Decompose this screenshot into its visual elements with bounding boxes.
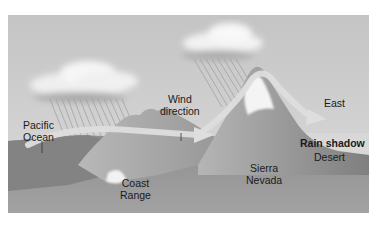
label-east: East [324,97,345,109]
label-coast-range: Coast Range [120,177,151,201]
rain-shadow-diagram: Pacific Ocean Wind direction Coast Range… [8,15,369,213]
label-pacific-ocean: Pacific Ocean [23,119,54,143]
label-wind-direction: Wind direction [160,93,200,117]
label-sierra-nevada: Sierra Nevada [246,162,282,186]
label-desert: Desert [314,151,345,163]
label-rain-shadow: Rain shadow [300,137,365,149]
